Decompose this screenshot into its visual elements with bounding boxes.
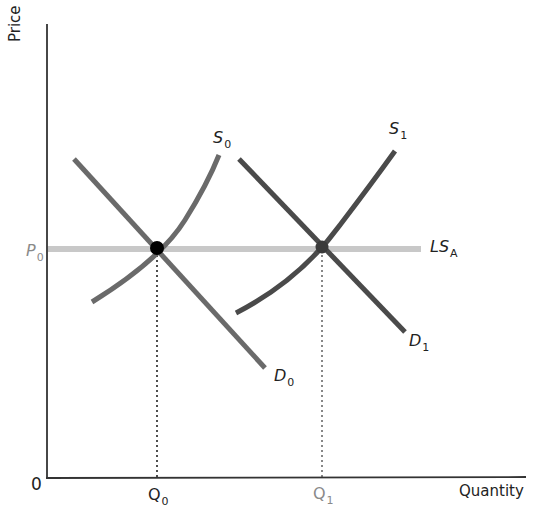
s1-label-sub: 1 — [400, 129, 407, 142]
x-axis-title: Quantity — [459, 484, 524, 499]
s0-label: S0 — [213, 130, 231, 146]
p0-label: P0 — [26, 243, 44, 259]
q1-label: Q1 — [313, 486, 334, 502]
q0-label-main: Q — [148, 485, 161, 504]
s1-label-main: S — [389, 119, 399, 138]
equilibrium-point-e0 — [150, 241, 164, 255]
d0-label-main: D — [274, 366, 286, 385]
demand-curve-d0 — [74, 159, 265, 368]
s1-label: S1 — [389, 121, 407, 137]
q1-label-sub: 1 — [327, 494, 334, 507]
q1-label-main: Q — [313, 484, 326, 503]
d1-label: D1 — [409, 333, 429, 349]
y-axis-title: Price — [8, 5, 23, 42]
lsa-label-main: LS — [430, 237, 449, 256]
origin-label: 0 — [31, 476, 42, 493]
p0-label-sub: 0 — [37, 251, 44, 264]
equilibrium-point-e1 — [316, 241, 329, 254]
supply-curve-s1 — [236, 151, 395, 313]
q0-label-sub: 0 — [162, 495, 169, 508]
lsa-label: LSA — [430, 239, 458, 255]
d0-label-sub: 0 — [287, 376, 294, 389]
supply-curve-s0 — [92, 155, 219, 302]
s0-label-main: S — [213, 128, 223, 147]
q0-label: Q0 — [148, 487, 169, 503]
x-axis — [46, 477, 526, 478]
d0-label: D0 — [274, 368, 294, 384]
p0-label-main: P — [26, 241, 36, 260]
supply-demand-diagram — [0, 0, 554, 529]
s0-label-sub: 0 — [224, 138, 231, 151]
lsa-label-sub: A — [450, 247, 458, 260]
d1-label-sub: 1 — [422, 341, 429, 354]
d1-label-main: D — [409, 331, 421, 350]
